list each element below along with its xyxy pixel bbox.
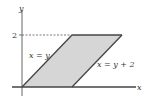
curve-label-x-equals-y-plus-2: x = y + 2 — [97, 60, 135, 69]
y-tick-label-2: 2 — [12, 31, 17, 40]
region-diagram: y x 2 x = y x = y + 2 — [0, 0, 144, 97]
curve-label-x-equals-y: x = y — [29, 51, 50, 60]
x-axis-label: x — [137, 83, 142, 92]
y-axis-label: y — [18, 4, 24, 13]
